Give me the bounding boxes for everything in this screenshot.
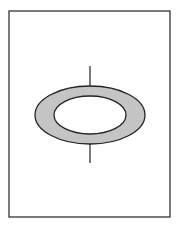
ring-diagram: [0, 0, 181, 229]
frame-border: [9, 11, 170, 217]
ring-shape: [35, 86, 145, 144]
